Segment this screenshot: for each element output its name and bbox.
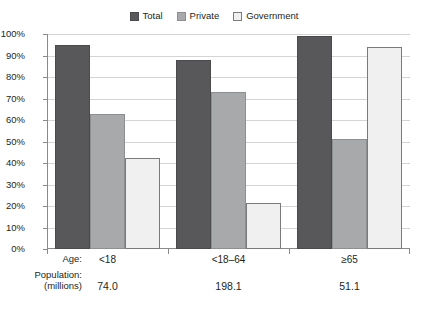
legend-item-total: Total — [130, 11, 163, 21]
bar-group — [55, 34, 160, 249]
bar-private-2[interactable] — [211, 92, 246, 249]
y-axis-tick-mark — [43, 99, 47, 100]
y-axis-tick-label: 30% — [0, 180, 25, 190]
y-axis-tick-label: 40% — [0, 158, 25, 168]
legend-label-private: Private — [190, 11, 220, 21]
bar-total-2[interactable] — [176, 60, 211, 249]
y-axis-tick-mark — [43, 56, 47, 57]
chart-legend: Total Private Government — [0, 11, 428, 21]
bar-total-1[interactable] — [55, 45, 90, 249]
y-axis-tick-label: 90% — [0, 51, 25, 61]
bar-government-1[interactable] — [125, 158, 160, 249]
bar-group — [297, 34, 402, 249]
y-axis-tick-mark — [43, 120, 47, 121]
y-axis-tick-mark — [43, 34, 47, 35]
y-axis-tick-mark — [43, 228, 47, 229]
y-axis-tick-mark — [43, 206, 47, 207]
y-axis-line — [47, 34, 48, 249]
y-axis-tick-label: 60% — [0, 115, 25, 125]
bar-government-2[interactable] — [246, 203, 281, 249]
population-caption-main: Population: — [34, 269, 82, 280]
y-axis-tick-mark — [43, 77, 47, 78]
y-axis-tick-mark — [43, 163, 47, 164]
y-axis-tick-label: 50% — [0, 137, 25, 147]
age-group-label: ≥65 — [295, 254, 405, 266]
bar-government-3[interactable] — [367, 47, 402, 249]
y-axis-tick-mark — [43, 185, 47, 186]
y-axis-tick-label: 80% — [0, 72, 25, 82]
population-value: 198.1 — [174, 280, 284, 292]
legend-label-total: Total — [143, 11, 163, 21]
y-axis-tick-label: 100% — [0, 29, 25, 39]
age-group-label: <18 — [53, 254, 163, 266]
plot-area: 100%90%80%70%60%50%40%30%20%10%0% — [47, 34, 410, 249]
legend-swatch-total-icon — [130, 12, 139, 21]
legend-item-government: Government — [233, 11, 298, 21]
legend-item-private: Private — [177, 11, 220, 21]
bar-chart-figure: Total Private Government 100%90%80%70%60… — [0, 0, 428, 319]
population-value: 51.1 — [295, 280, 405, 292]
population-value: 74.0 — [53, 280, 163, 292]
y-axis-tick-mark — [43, 142, 47, 143]
bar-private-1[interactable] — [90, 114, 125, 249]
population-label-row: Population: (millions) 74.0198.151.1 — [0, 271, 428, 301]
legend-label-government: Government — [246, 11, 298, 21]
y-axis-tick-label: 10% — [0, 223, 25, 233]
y-axis-tick-label: 20% — [0, 201, 25, 211]
legend-swatch-private-icon — [177, 12, 186, 21]
y-axis-tick-label: 70% — [0, 94, 25, 104]
legend-swatch-government-icon — [233, 12, 242, 21]
bar-private-3[interactable] — [332, 139, 367, 249]
category-label-rows: Age: <18<18–64≥65 Population: (millions)… — [0, 253, 428, 301]
bar-total-3[interactable] — [297, 36, 332, 249]
bar-group — [176, 34, 281, 249]
age-group-label: <18–64 — [174, 254, 284, 266]
